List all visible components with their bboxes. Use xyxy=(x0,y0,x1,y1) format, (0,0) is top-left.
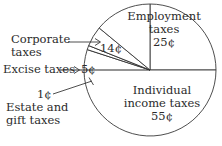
callout-label-corporate-taxes-line2: taxes xyxy=(11,46,73,59)
callout-label-corporate-taxes: Corporate taxes xyxy=(11,33,73,59)
slice-value-individual-income-taxes: 55¢ xyxy=(112,110,212,123)
slice-value-employment-taxes: 25¢ xyxy=(118,36,210,49)
slice-value-corporate-taxes: 14¢ xyxy=(100,42,128,55)
slice-label-employment-taxes-line2: taxes xyxy=(118,23,210,36)
callout-label-estate-and-gift-taxes-line1: Estate and xyxy=(6,101,86,114)
slice-value-excise-taxes: 5¢ xyxy=(81,63,105,76)
callout-label-excise-taxes-line1: Excise taxes xyxy=(3,63,75,76)
slice-label-employment-taxes-line1: Employment xyxy=(118,10,210,23)
slice-value-estate-and-gift-taxes: 1¢ xyxy=(37,88,57,101)
slice-label-individual-income-taxes-line2: income taxes xyxy=(112,97,212,110)
slice-label-individual-income-taxes: Individual income taxes 55¢ xyxy=(112,84,212,123)
pie-chart-figure: Employment taxes 25¢ Individual income t… xyxy=(0,0,222,146)
callout-label-excise-taxes: Excise taxes xyxy=(3,63,75,76)
callout-label-estate-and-gift-taxes-line2: gift taxes xyxy=(6,114,86,127)
slice-label-individual-income-taxes-line1: Individual xyxy=(112,84,212,97)
callout-label-corporate-taxes-line1: Corporate xyxy=(11,33,73,46)
slice-label-employment-taxes: Employment taxes 25¢ xyxy=(118,10,210,49)
callout-label-estate-and-gift-taxes: Estate and gift taxes xyxy=(6,101,86,127)
